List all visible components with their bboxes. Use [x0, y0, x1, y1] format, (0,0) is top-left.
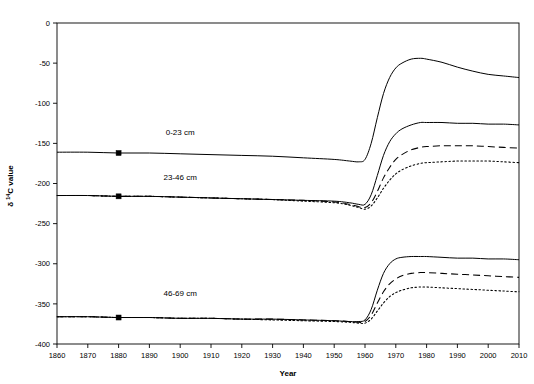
chart-container: 0-50-100-150-200-250-300-350-400 1860187…	[0, 0, 534, 384]
chart-background	[0, 0, 534, 384]
x-axis-tick-label: 1880	[110, 351, 127, 360]
y-axis-tick-label: -200	[35, 179, 50, 188]
series-marker	[116, 151, 121, 156]
x-axis-tick-label: 1890	[141, 351, 158, 360]
x-axis-tick-label: 1870	[79, 351, 96, 360]
x-axis-tick-label: 1920	[233, 351, 250, 360]
y-axis-tick-label: -150	[35, 139, 50, 148]
x-axis-tick-label: 1960	[357, 351, 374, 360]
y-axis-tick-label: -350	[35, 300, 50, 309]
series-annotation-label: 46-69 cm	[164, 289, 198, 298]
x-axis-tick-label: 2010	[511, 351, 528, 360]
x-axis-tick-label: 1980	[418, 351, 435, 360]
series-marker	[116, 315, 121, 320]
y-axis-tick-label: -100	[35, 99, 50, 108]
svg-text:δ 14C value: δ 14C value	[5, 165, 15, 207]
series-marker	[116, 194, 121, 199]
x-axis-tick-label: 2000	[480, 351, 497, 360]
y-axis-tick-label: 0	[46, 19, 50, 28]
y-axis-title-suffix: C value	[6, 165, 15, 194]
radiocarbon-line-chart: 0-50-100-150-200-250-300-350-400 1860187…	[0, 0, 534, 384]
x-axis-tick-label: 1950	[326, 351, 343, 360]
y-axis-tick-label: -50	[39, 59, 50, 68]
x-axis-tick-label: 1910	[203, 351, 220, 360]
y-axis-title: δ 14C value	[5, 165, 15, 207]
series-annotation-label: 23-46 cm	[164, 173, 198, 182]
x-axis-tick-label: 1970	[387, 351, 404, 360]
series-annotation-label: 0-23 cm	[166, 128, 195, 137]
y-axis-tick-label: -300	[35, 259, 50, 268]
x-axis-tick-label: 1860	[49, 351, 66, 360]
x-axis-tick-label: 1900	[172, 351, 189, 360]
x-axis-tick-label: 1990	[449, 351, 466, 360]
y-axis-tick-label: -400	[35, 340, 50, 349]
y-axis-title-delta: δ	[6, 200, 15, 207]
x-axis-tick-label: 1930	[264, 351, 281, 360]
y-axis-tick-label: -250	[35, 219, 50, 228]
x-axis-tick-label: 1940	[295, 351, 312, 360]
x-axis-title: Year	[280, 369, 297, 378]
